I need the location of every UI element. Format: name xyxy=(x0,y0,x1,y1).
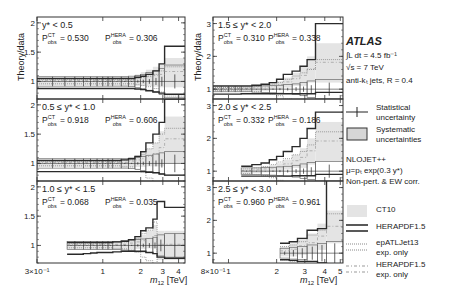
y-axis-label-right: Theory/data xyxy=(193,33,203,81)
ct10-band xyxy=(300,66,307,86)
x-axis-title-right: m12 [TeV] xyxy=(300,275,337,286)
p-obs-label: PHERAobs = 0.306 xyxy=(105,32,158,45)
panel-rapidity-label: 1.0 ≤ y* < 1.5 xyxy=(42,184,95,194)
p-obs-label: PHERAobs = 0.035 xyxy=(105,196,158,209)
lumi-label: ∫L dt = 4.5 fb⁻¹ xyxy=(346,51,397,61)
x-tick-label: 1 xyxy=(226,267,231,276)
errorbar-icon xyxy=(346,105,368,119)
x-tick-label: 5 xyxy=(338,267,343,276)
x-tick-label: 1 xyxy=(101,267,106,276)
epatl-dotted-icon xyxy=(346,240,368,254)
ct10-band xyxy=(135,237,141,249)
panel-rapidity-label: 0.5 ≤ y* < 1.0 xyxy=(42,102,95,112)
hera-exp-dashdot-icon xyxy=(346,262,368,276)
y-tick-label: 3 xyxy=(207,184,212,193)
herapdf-lower xyxy=(37,172,185,176)
y-tick-label: 1 xyxy=(207,167,212,176)
y-tick-label: 2 xyxy=(207,216,212,225)
ct10-fill-icon xyxy=(346,204,368,218)
y-tick-label: 2 xyxy=(31,19,36,28)
panel-rapidity-label: y* < 0.5 xyxy=(42,20,73,30)
panel-0: 11.52y* < 0.5PCTobs = 0.530PHERAobs = 0.… xyxy=(24,17,185,99)
svg-text:m12 [TeV]: m12 [TeV] xyxy=(150,275,187,286)
epatl-label-2: exp. only xyxy=(376,248,419,258)
p-obs-label: PCTobs = 0.530 xyxy=(42,32,89,45)
hera-label: HERAPDF1.5 xyxy=(376,222,425,232)
herapdf-lower xyxy=(213,92,343,94)
ct10-band xyxy=(283,160,292,170)
p-obs-label: PCTobs = 0.918 xyxy=(42,114,89,127)
ct10-band xyxy=(307,138,315,164)
hera-line-icon xyxy=(346,221,368,235)
p-obs-label: PHERAobs = 0.338 xyxy=(268,32,321,45)
ct10-band xyxy=(316,122,343,161)
p-obs-label: PCTobs = 0.332 xyxy=(218,114,265,127)
y-tick-label: 3 xyxy=(207,102,212,111)
xlabel-unit-right: [TeV] xyxy=(314,275,337,285)
nlo-label: NLOJET++ xyxy=(346,155,386,165)
syst-label-1: Systematic xyxy=(376,125,421,135)
atlas-label: ATLAS xyxy=(346,36,382,46)
y-tick-label: 1 xyxy=(31,241,36,250)
panel-2: 11.521.0 ≤ y* < 1.5PCTobs = 0.068PHERAob… xyxy=(24,181,185,276)
corr-label: Non-pert. & EW corr. xyxy=(346,177,420,187)
panels-group: 11.52y* < 0.5PCTobs = 0.530PHERAobs = 0.… xyxy=(24,17,343,293)
panel-rapidity-label: 2.0 ≤ y* < 2.5 xyxy=(218,102,271,112)
syst-label-2: uncertainties xyxy=(376,135,421,145)
sqrt-s-label: √s = 7 TeV xyxy=(346,63,384,73)
jet-algo-label: anti-kₜ jets, R = 0.4 xyxy=(346,76,413,86)
y-tick-label: 1 xyxy=(207,249,212,258)
p-obs-label: PHERAobs = 0.606 xyxy=(105,114,158,127)
y-tick-label: 2 xyxy=(207,134,212,143)
ct10-band xyxy=(277,163,284,171)
syst-box-icon xyxy=(346,127,368,141)
p-obs-label: PHERAobs = 0.186 xyxy=(268,114,321,127)
ct10-label: CT10 xyxy=(376,205,396,215)
y-tick-label: 3 xyxy=(207,20,212,29)
stat-label-2: uncertainty xyxy=(376,113,415,123)
x-tick-label: 8×10⁻¹ xyxy=(201,267,226,276)
svg-text:m12 [TeV]: m12 [TeV] xyxy=(300,275,337,286)
x-axis-title-left: m12 [TeV] xyxy=(150,275,187,286)
y-tick-label: 2 xyxy=(31,101,36,110)
x-tick-label: 2 xyxy=(274,267,279,276)
ct10-band xyxy=(316,43,343,82)
scale-label: μ=pₜ exp(0.3 y*) xyxy=(346,166,403,176)
p-obs-label: PCTobs = 0.068 xyxy=(42,196,89,209)
x-tick-label: 3×10⁻¹ xyxy=(25,267,50,276)
legend-item-epatl: epATLJet13exp. only xyxy=(346,238,460,260)
legend-item-stat: Statisticaluncertainty xyxy=(346,103,460,125)
stat-label-1: Statistical xyxy=(376,103,415,113)
y-tick-label: 1 xyxy=(31,159,36,168)
ct10-band xyxy=(326,211,343,244)
y-tick-label: 1.5 xyxy=(24,130,36,139)
p-obs-label: PHERAobs = 0.961 xyxy=(268,196,321,209)
heraexp-label-1: HERAPDF1.5 xyxy=(376,260,425,270)
ct10-band xyxy=(292,155,300,168)
y-tick-label: 1.5 xyxy=(24,212,36,221)
panel-rapidity-label: 1.5 ≤ y* < 2.0 xyxy=(218,20,271,30)
herapdf-lower xyxy=(37,89,185,95)
heraexp-label-2: exp. only xyxy=(376,270,425,280)
p-obs-label: PCTobs = 0.310 xyxy=(218,32,265,45)
y-tick-label: 2 xyxy=(207,52,212,61)
epatl-label-1: epATLJet13 xyxy=(376,238,419,248)
legend-item-hera-exp: HERAPDF1.5exp. only xyxy=(346,260,460,282)
xlabel-unit: [TeV] xyxy=(164,275,187,285)
y-tick-label: 1 xyxy=(31,77,36,86)
p-obs-label: PCTobs = 0.960 xyxy=(218,196,265,209)
x-tick-label: 2 xyxy=(138,267,143,276)
y-tick-label: 1.5 xyxy=(24,48,36,57)
legend-item-syst: Systematicuncertainties xyxy=(346,125,460,147)
y-tick-label: 1 xyxy=(207,85,212,94)
panel-rapidity-label: 2.5 ≤ y* < 3.0 xyxy=(218,184,271,194)
y-tick-label: 2 xyxy=(31,183,36,192)
ct10-band xyxy=(252,168,261,173)
